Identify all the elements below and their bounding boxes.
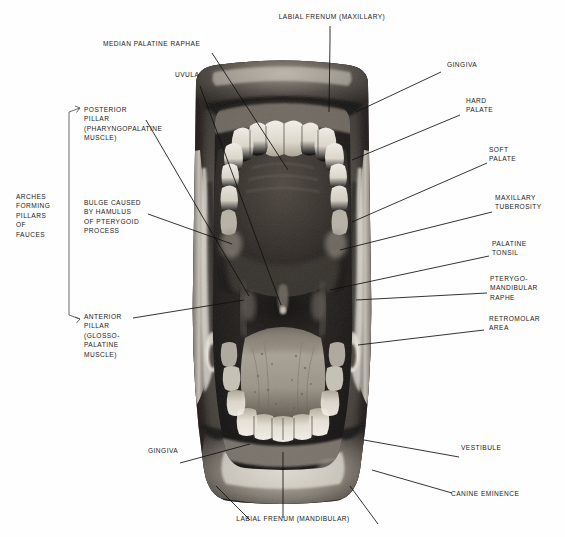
label-soft-palate: SOFT PALATE	[489, 145, 559, 164]
label-median-palatine-raphae: MEDIAN PALATINE RAPHAE	[103, 39, 233, 48]
label-palatine-tonsil: PALATINE TONSIL	[492, 239, 562, 258]
label-labial-frenum-maxillary: LABIAL FRENUM (MAXILLARY)	[262, 12, 402, 21]
label-bulge-hamulus: BULGE CAUSED BY HAMULUS OF PTERYGOID PRO…	[84, 198, 194, 236]
label-anterior-pillar: ANTERIOR PILLAR (GLOSSO- PALATINE MUSCLE…	[84, 312, 194, 359]
figure-canvas: LABIAL FRENUM (MAXILLARY) MEDIAN PALATIN…	[0, 0, 565, 537]
label-canine-eminence: CANINE EMINENCE	[451, 489, 561, 498]
leader-gingiva-upper-right	[356, 72, 441, 112]
label-uvula: UVULA	[175, 70, 235, 79]
label-maxillary-tuberosity: MAXILLARY TUBEROSITY	[495, 193, 565, 212]
label-pterygomandibular-raphe: PTERYGO- MANDIBULAR RAPHE	[490, 274, 565, 302]
label-arches-forming-pillars-of-fauces: ARCHES FORMING PILLARS OF FAUCES	[16, 192, 78, 239]
anatomy-figure-svg	[0, 0, 565, 537]
label-vestibule: VESTIBULE	[461, 443, 531, 452]
label-gingiva-upper-right: GINGIVA	[447, 60, 517, 69]
label-posterior-pillar: POSTERIOR PILLAR (PHARYNGOPALATINE MUSCL…	[84, 105, 194, 143]
label-labial-frenum-mandibular: LABIAL FRENUM (MANDIBULAR)	[213, 514, 373, 523]
label-gingiva-lower-left: GINGIVA	[148, 446, 218, 455]
leader-pterygomandibular-raphe	[356, 293, 487, 300]
leader-canine-eminence	[372, 470, 452, 493]
label-hard-palate: HARD PALATE	[466, 96, 536, 115]
photo-grain	[190, 58, 375, 528]
leader-retromolar-area	[358, 330, 484, 345]
leader-soft-palate	[352, 163, 487, 222]
leader-vestibule	[364, 440, 459, 457]
label-retromolar-area: RETROMOLAR AREA	[489, 314, 561, 333]
